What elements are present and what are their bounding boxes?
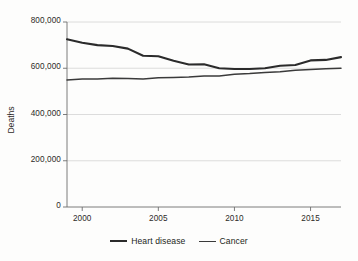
legend-label-cancer: Cancer: [220, 236, 248, 246]
tick-marks-group: [63, 22, 311, 211]
x-tick-label: 2015: [298, 214, 324, 223]
chart-figure: Deaths 0200,000400,000600,000800,000 200…: [0, 0, 358, 261]
legend-line-swatch-heart-disease: [110, 240, 127, 242]
series-line-cancer: [67, 68, 341, 80]
y-tick-label: 600,000: [31, 62, 61, 71]
y-tick-label: 200,000: [31, 155, 61, 164]
x-tick-label: 2005: [145, 214, 171, 223]
data-series-group: [67, 39, 341, 80]
gridlines-group: [67, 22, 341, 207]
y-tick-label: 0: [56, 201, 61, 210]
y-tick-label: 800,000: [31, 16, 61, 25]
y-tick-label: 400,000: [31, 109, 61, 118]
x-tick-label: 2010: [221, 214, 247, 223]
chart-legend: Heart disease Cancer: [0, 236, 358, 246]
legend-item-heart-disease[interactable]: Heart disease: [110, 236, 185, 246]
legend-item-cancer[interactable]: Cancer: [199, 236, 248, 246]
series-line-heart-disease: [67, 39, 341, 69]
legend-line-swatch-cancer: [199, 241, 216, 242]
y-axis-title: Deaths: [6, 106, 16, 133]
legend-label-heart-disease: Heart disease: [131, 236, 185, 246]
x-tick-label: 2000: [69, 214, 95, 223]
